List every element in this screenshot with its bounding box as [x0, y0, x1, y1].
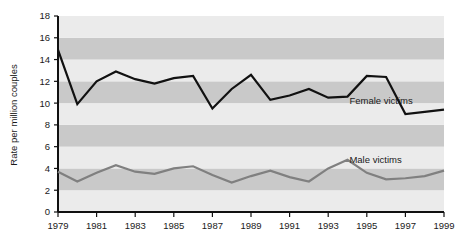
chart-container: 024681012141618 197919811983198519871989… [0, 0, 474, 241]
plot-band [58, 38, 444, 60]
y-axis-tick-label: 0 [45, 206, 50, 217]
x-axis-tick-label: 1995 [356, 220, 377, 231]
plot-band [58, 103, 444, 125]
y-axis-tick-label: 8 [45, 119, 50, 130]
plot-band [58, 190, 444, 212]
plot-band [58, 125, 444, 147]
y-axis-tick-label: 16 [39, 32, 50, 43]
y-axis-tick-label: 10 [39, 98, 50, 109]
annotation-male-victims: Male victims [349, 154, 402, 165]
y-axis-tick-label: 18 [39, 10, 50, 21]
x-axis-tick-label: 1997 [395, 220, 416, 231]
x-axis-tick-label: 1999 [433, 220, 454, 231]
x-axis-tick-label: 1991 [279, 220, 300, 231]
x-axis-tick-label: 1981 [86, 220, 107, 231]
plot-band [58, 16, 444, 38]
x-axis-tick-label: 1979 [47, 220, 68, 231]
x-axis-tick-label: 1985 [163, 220, 184, 231]
annotation-female-victims: Female victims [349, 95, 413, 106]
y-axis-tick-label: 14 [39, 54, 50, 65]
x-axis-tick-label: 1989 [240, 220, 261, 231]
plot-background-bands [58, 16, 444, 212]
y-axis-tick-label: 12 [39, 76, 50, 87]
y-axis-tick-label: 6 [45, 141, 50, 152]
x-axis-tick-label: 1983 [125, 220, 146, 231]
y-axis-tick-label: 2 [45, 185, 50, 196]
line-chart: 024681012141618 197919811983198519871989… [0, 0, 474, 241]
x-axis-tick-label: 1993 [318, 220, 339, 231]
y-axis-tick-label: 4 [45, 163, 50, 174]
y-axis-title: Rate per million couples [8, 64, 19, 166]
x-axis-tick-label: 1987 [202, 220, 223, 231]
